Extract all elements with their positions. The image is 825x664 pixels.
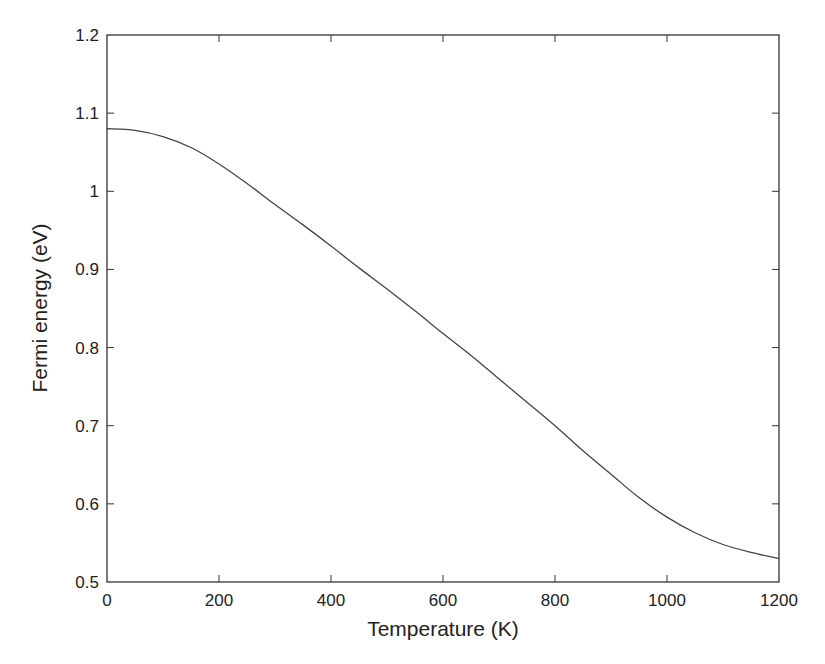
x-tick-label: 200 — [205, 591, 233, 610]
y-tick-label: 0.8 — [75, 339, 99, 358]
x-axis: 020040060080010001200 — [102, 35, 798, 610]
y-axis: 0.50.60.70.80.911.11.2 — [75, 26, 779, 592]
plot-border — [107, 35, 779, 582]
y-axis-label: Fermi energy (eV) — [28, 223, 51, 392]
y-tick-label: 0.5 — [75, 573, 99, 592]
x-tick-label: 1200 — [760, 591, 798, 610]
x-tick-label: 800 — [541, 591, 569, 610]
x-axis-label: Temperature (K) — [367, 617, 519, 640]
x-tick-label: 600 — [429, 591, 457, 610]
x-tick-label: 0 — [102, 591, 111, 610]
y-tick-label: 1 — [90, 182, 99, 201]
y-tick-label: 1.1 — [75, 104, 99, 123]
fermi-energy-curve — [107, 129, 779, 559]
x-tick-label: 400 — [317, 591, 345, 610]
plot-frame — [107, 35, 779, 582]
fermi-energy-chart: 020040060080010001200 0.50.60.70.80.911.… — [0, 0, 825, 664]
y-tick-label: 0.6 — [75, 495, 99, 514]
y-tick-label: 0.9 — [75, 260, 99, 279]
y-tick-label: 1.2 — [75, 26, 99, 45]
x-tick-label: 1000 — [648, 591, 686, 610]
y-tick-label: 0.7 — [75, 417, 99, 436]
